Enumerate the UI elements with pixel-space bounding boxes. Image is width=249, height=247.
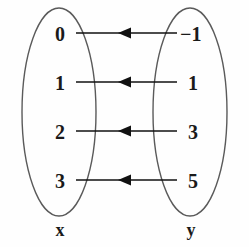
range-value-5: 5 <box>188 171 222 191</box>
range-value-neg1: −1 <box>180 24 214 44</box>
arrow-3-to-5 <box>76 175 177 186</box>
range-value-3: 3 <box>188 122 222 142</box>
mapping-diagram: 0 1 2 3 −1 1 3 5 x y <box>0 0 249 247</box>
domain-value-0: 0 <box>43 24 65 44</box>
domain-value-3: 3 <box>43 171 65 191</box>
arrow-2-to-3 <box>76 126 177 137</box>
domain-set-label: x <box>51 221 69 239</box>
arrow-1-to-1 <box>76 77 177 88</box>
domain-value-2: 2 <box>43 122 65 142</box>
range-set-label: y <box>182 221 200 239</box>
arrow-0-to-neg1 <box>76 28 177 39</box>
range-value-1: 1 <box>188 73 222 93</box>
domain-value-1: 1 <box>43 73 65 93</box>
